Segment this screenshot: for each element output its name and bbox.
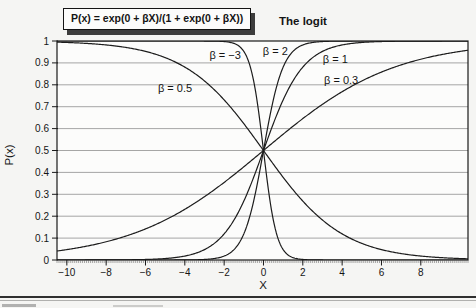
curve-label: β = −3 [209, 49, 240, 61]
curve-label: β = 1 [323, 53, 348, 65]
x-tick-label: 8 [418, 267, 424, 278]
y-tick-label: 0.8 [35, 79, 49, 90]
scanned-figure-page: P(x) = exp(0 + βX)/(1 + exp(0 + βX)) The… [0, 0, 476, 308]
page-divider-rule-echo [0, 300, 476, 301]
x-tick-label: 6 [379, 267, 385, 278]
y-tick-label: 0.4 [35, 167, 49, 178]
curve-label: β = 0.3 [324, 74, 358, 86]
x-tick-label: 2 [300, 267, 306, 278]
logit-chart: P(x) X 00.10.20.30.40.50.60.70.80.91−10−… [0, 0, 476, 308]
y-axis-title: P(x) [3, 144, 15, 165]
cropped-text-artifact [2, 304, 36, 307]
x-tick-label: −10 [58, 267, 75, 278]
x-axis-title: X [259, 279, 267, 291]
curve-label: β = 2 [263, 45, 288, 57]
y-tick-label: 1 [43, 36, 49, 47]
y-tick-label: 0.2 [35, 211, 49, 222]
y-tick-label: 0 [43, 255, 49, 266]
x-tick-label: 0 [261, 267, 267, 278]
y-tick-label: 0.7 [35, 101, 49, 112]
formula-box: P(x) = exp(0 + βX)/(1 + exp(0 + βX)) [63, 8, 251, 30]
y-tick-label: 0.3 [35, 189, 49, 200]
figure-title: The logit [279, 15, 327, 27]
y-tick-label: 0.5 [35, 145, 49, 156]
page-divider-rule [0, 296, 476, 298]
x-tick-label: −8 [100, 267, 112, 278]
y-tick-label: 0.6 [35, 123, 49, 134]
x-tick-label: −4 [179, 267, 191, 278]
x-tick-label: 4 [339, 267, 345, 278]
y-tick-label: 0.9 [35, 57, 49, 68]
x-tick-label: −2 [218, 267, 230, 278]
x-tick-label: −6 [140, 267, 152, 278]
y-tick-label: 0.1 [35, 233, 49, 244]
cropped-text-artifact [113, 305, 163, 307]
curve-label: β = 0.5 [158, 82, 192, 94]
formula-text: P(x) = exp(0 + βX)/(1 + exp(0 + βX)) [71, 12, 243, 24]
